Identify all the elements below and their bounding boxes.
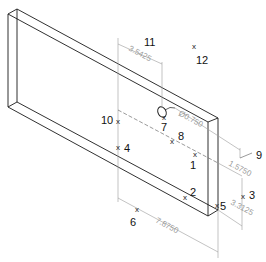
dimension-right-offset: 1.5750 [227,159,253,179]
point-label-8: 8 [178,130,184,142]
marker-2[interactable]: x [183,193,187,202]
marker-1[interactable]: x [193,150,197,159]
point-label-1: 1 [190,159,196,171]
point-label-6: 6 [130,216,136,228]
point-label-12: 12 [196,54,208,66]
marker-10[interactable]: x [116,117,120,126]
point-label-11: 11 [144,36,155,48]
point-label-10: 10 [101,114,113,126]
marker-4[interactable]: x [116,143,120,152]
point-label-3: 3 [249,189,255,201]
dimension-hole-diameter: Ø0.750 [177,109,205,130]
point-label-7: 7 [161,121,167,133]
dimension-lines [118,38,252,258]
isometric-plate-drawing: 3.5425 Ø0.750 1.5750 3.3125 7.8750 x x x… [0,0,266,262]
dimension-length: 7.8750 [154,216,180,236]
point-markers: x x x x x x x x x x [116,42,245,214]
technical-drawing-canvas: 3.5425 Ø0.750 1.5750 3.3125 7.8750 x x x… [0,0,266,262]
marker-8[interactable]: x [170,137,174,146]
point-label-2: 2 [190,186,196,198]
marker-6[interactable]: x [135,205,139,214]
marker-12[interactable]: x [192,42,196,51]
point-label-5: 5 [220,200,226,212]
marker-5[interactable]: x [215,201,219,210]
point-label-9: 9 [256,149,262,161]
point-label-4: 4 [124,142,130,154]
marker-3[interactable]: x [241,192,245,201]
